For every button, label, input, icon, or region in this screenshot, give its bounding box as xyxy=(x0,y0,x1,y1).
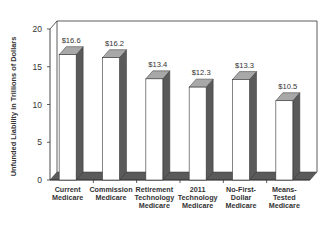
bar-side xyxy=(163,71,170,180)
bar-front xyxy=(189,87,206,180)
value-label: $16.2 xyxy=(100,39,130,48)
x-category-label: Means- Tested Medicare xyxy=(261,186,307,210)
y-axis-depth xyxy=(50,21,57,29)
bar-front xyxy=(59,55,76,180)
value-label: $10.5 xyxy=(273,82,303,91)
bar-chart: Unfunded Liability in Trillions of Dolla… xyxy=(0,0,336,228)
y-axis-title: Unfunded Liability in Trillions of Dolla… xyxy=(4,28,24,184)
bar-front xyxy=(276,101,293,180)
x-category-label: Retirement Technology Medicare xyxy=(131,186,177,210)
bar-front xyxy=(146,79,163,180)
value-label: $16.6 xyxy=(56,36,86,45)
value-label: $13.4 xyxy=(143,60,173,69)
value-label: $13.3 xyxy=(230,61,260,70)
bar-side xyxy=(206,79,213,180)
y-tick-label: 20 xyxy=(28,24,42,34)
y-tick-label: 15 xyxy=(28,62,42,72)
y-tick-label: 10 xyxy=(28,100,42,110)
y-tick-label: 0 xyxy=(28,175,42,185)
value-label: $12.3 xyxy=(186,68,216,77)
bar-front xyxy=(103,58,120,180)
x-category-label: Current Medicare xyxy=(45,186,91,202)
bar-side xyxy=(120,50,127,180)
x-category-label: Commission Medicare xyxy=(88,186,134,202)
bar-front xyxy=(233,80,250,180)
y-axis-title-text: Unfunded Liability in Trillions of Dolla… xyxy=(10,36,19,176)
bar-side xyxy=(250,72,257,180)
y-tick-label: 5 xyxy=(28,137,42,147)
bar-side xyxy=(293,93,300,180)
x-category-label: 2011 Technology Medicare xyxy=(175,186,221,210)
bar-side xyxy=(76,47,83,180)
x-category-label: No-First- Dollar Medicare xyxy=(218,186,264,210)
